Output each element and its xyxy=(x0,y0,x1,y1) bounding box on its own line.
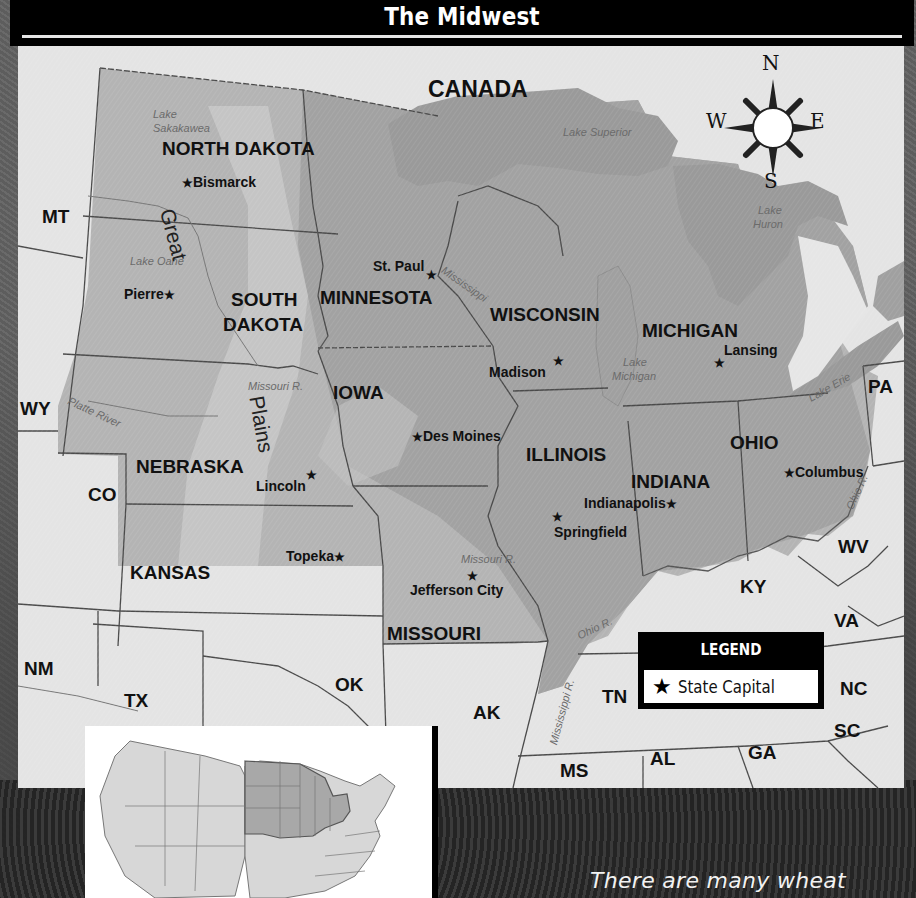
compass-star-icon xyxy=(718,73,828,183)
water-label-lake-superior: Lake Superior xyxy=(563,126,632,138)
water-label-lake-michigan-2: Michigan xyxy=(612,370,656,382)
star-icon: ★ xyxy=(467,569,478,583)
state-abbr-wy: WY xyxy=(20,398,51,420)
capital-madison: Madison xyxy=(489,364,546,380)
compass-rose: N W E S xyxy=(718,51,828,191)
water-label-lake-sakakawea-2: Sakakawea xyxy=(153,122,210,134)
state-label-kansas: KANSAS xyxy=(130,562,210,584)
legend-item-state-capital: ★ State Capital xyxy=(644,670,818,703)
star-icon: ★ xyxy=(784,466,795,480)
capital-lansing: Lansing xyxy=(724,342,778,358)
state-abbr-al: AL xyxy=(650,748,675,770)
state-label-north-dakota: NORTH DAKOTA xyxy=(162,138,315,160)
capital-lincoln: Lincoln xyxy=(256,478,306,494)
state-abbr-ok: OK xyxy=(335,674,364,696)
state-abbr-mt: MT xyxy=(42,206,69,228)
capital-st-paul-star: ★ xyxy=(426,266,437,282)
us-outline-map xyxy=(85,726,432,898)
state-abbr-pa: PA xyxy=(868,376,893,398)
capital-jefferson-city-star: ★ xyxy=(467,567,478,583)
country-label-canada: CANADA xyxy=(428,76,528,103)
state-label-indiana: INDIANA xyxy=(631,471,710,493)
compass-north-label: N xyxy=(762,51,780,75)
capital-madison-star: ★ xyxy=(553,352,564,368)
capital-lansing-star: ★ xyxy=(714,354,725,370)
capital-lincoln-star: ★ xyxy=(306,466,317,482)
star-icon: ★ xyxy=(164,288,175,302)
star-icon: ★ xyxy=(426,268,437,282)
state-abbr-tx: TX xyxy=(124,690,148,712)
page-title: The Midwest xyxy=(73,2,850,31)
star-icon: ★ xyxy=(182,176,193,190)
capital-bismarck: ★Bismarck xyxy=(182,174,256,190)
legend-item-label: State Capital xyxy=(678,677,775,697)
state-label-nebraska: NEBRASKA xyxy=(136,456,244,478)
state-abbr-sc: SC xyxy=(834,720,860,742)
state-label-south-dakota-line2: DAKOTA xyxy=(223,314,303,336)
state-label-south-dakota-line1: SOUTH xyxy=(231,289,298,311)
water-label-lake-sakakawea-1: Lake xyxy=(153,108,177,120)
map-legend: LEGEND ★ State Capital xyxy=(638,632,824,709)
state-abbr-va: VA xyxy=(834,610,859,632)
state-label-missouri: MISSOURI xyxy=(387,623,481,645)
star-icon: ★ xyxy=(652,676,672,698)
photo-caption: There are many wheat xyxy=(590,868,846,893)
capital-st-paul: St. Paul xyxy=(373,258,424,274)
state-label-minnesota: MINNESOTA xyxy=(320,287,433,309)
capital-topeka: Topeka★ xyxy=(286,548,345,564)
title-divider xyxy=(22,35,902,38)
capital-columbus: ★Columbus xyxy=(784,464,863,480)
star-icon: ★ xyxy=(553,354,564,368)
state-abbr-ak: AK xyxy=(473,702,500,724)
legend-title: LEGEND xyxy=(654,634,809,664)
capital-indianapolis: Indianapolis★ xyxy=(584,495,677,511)
star-icon: ★ xyxy=(552,510,563,524)
state-label-michigan: MICHIGAN xyxy=(642,320,738,342)
water-label-lake-michigan-1: Lake xyxy=(623,356,647,368)
state-label-wisconsin: WISCONSIN xyxy=(490,304,600,326)
water-label-missouri-r-north: Missouri R. xyxy=(248,380,303,392)
state-abbr-wv: WV xyxy=(838,536,869,558)
state-label-illinois: ILLINOIS xyxy=(526,444,606,466)
us-locator-inset xyxy=(85,726,432,898)
state-abbr-nm: NM xyxy=(24,658,54,680)
star-icon: ★ xyxy=(666,497,677,511)
water-label-lake-huron-2: Huron xyxy=(753,218,783,230)
capital-springfield: Springfield xyxy=(554,524,627,540)
water-label-missouri-r-south: Missouri R. xyxy=(461,553,516,565)
state-abbr-ky: KY xyxy=(740,576,766,598)
star-icon: ★ xyxy=(334,550,345,564)
state-abbr-tn: TN xyxy=(602,686,627,708)
state-abbr-co: CO xyxy=(88,484,117,506)
star-icon: ★ xyxy=(714,356,725,370)
star-icon: ★ xyxy=(306,468,317,482)
capital-des-moines: ★Des Moines xyxy=(412,428,501,444)
state-abbr-ms: MS xyxy=(560,760,589,782)
capital-jefferson-city: Jefferson City xyxy=(410,582,503,598)
state-abbr-nc: NC xyxy=(840,678,867,700)
title-bar: The Midwest xyxy=(10,0,914,46)
state-label-ohio: OHIO xyxy=(730,432,779,454)
capital-pierre: Pierre★ xyxy=(124,286,175,302)
star-icon: ★ xyxy=(412,430,423,444)
water-label-lake-huron-1: Lake xyxy=(758,204,782,216)
state-abbr-ga: GA xyxy=(748,742,777,764)
capital-springfield-star: ★ xyxy=(552,508,563,524)
state-label-iowa: IOWA xyxy=(333,382,384,404)
